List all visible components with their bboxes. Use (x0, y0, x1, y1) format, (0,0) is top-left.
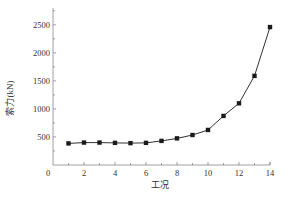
y-tick-label: 2500 (33, 20, 50, 30)
square-marker-icon (82, 140, 86, 144)
data-series (66, 25, 272, 146)
x-tick-label: 14 (266, 168, 275, 178)
x-tick-label: 2 (82, 168, 86, 178)
x-tick-label: 10 (204, 168, 213, 178)
square-marker-icon (221, 114, 225, 118)
square-marker-icon (144, 141, 148, 145)
square-marker-icon (113, 141, 117, 145)
series-line (69, 27, 271, 143)
square-marker-icon (268, 25, 272, 29)
x-tick-label: 4 (113, 168, 118, 178)
x-tick-label: 8 (175, 168, 179, 178)
axes: 500100015002000250002468101214 (33, 8, 275, 178)
x-tick-label: 12 (235, 168, 244, 178)
square-marker-icon (66, 141, 70, 145)
square-marker-icon (252, 74, 256, 78)
x-tick-label: 0 (46, 168, 50, 178)
square-marker-icon (97, 140, 101, 144)
square-marker-icon (190, 133, 194, 137)
line-chart: 500100015002000250002468101214 工况 索力(kN) (0, 0, 288, 202)
square-marker-icon (159, 139, 163, 143)
square-marker-icon (175, 136, 179, 140)
y-axis-title: 索力(kN) (4, 81, 15, 116)
square-marker-icon (237, 101, 241, 105)
y-tick-label: 500 (37, 132, 50, 142)
chart-canvas: 500100015002000250002468101214 工况 索力(kN) (0, 0, 288, 202)
x-tick-label: 6 (144, 168, 148, 178)
y-tick-label: 2000 (33, 48, 50, 58)
y-tick-label: 1500 (33, 76, 50, 86)
square-marker-icon (206, 128, 210, 132)
square-marker-icon (128, 141, 132, 145)
y-tick-label: 1000 (33, 104, 50, 114)
x-axis-title: 工况 (151, 180, 169, 190)
